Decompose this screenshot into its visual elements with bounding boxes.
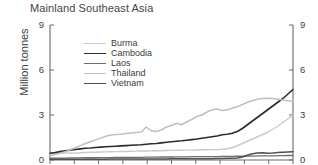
- chart-figure: Mainland Southeast Asia Million tonnes 0…: [0, 0, 318, 165]
- legend-item-thailand: Thailand: [84, 68, 152, 78]
- legend-line-swatch-icon: [84, 63, 106, 64]
- legend-line-swatch-icon: [84, 83, 106, 84]
- legend-item-label: Cambodia: [111, 48, 152, 58]
- legend-item-vietnam: Vietnam: [84, 78, 152, 88]
- legend-item-label: Burma: [111, 38, 138, 48]
- series-line-thailand: [50, 98, 293, 155]
- series-line-laos: [50, 156, 293, 159]
- legend-item-label: Thailand: [111, 68, 146, 78]
- y-tick-label-left: 9: [30, 19, 44, 30]
- legend: BurmaCambodiaLaosThailandVietnam: [84, 38, 152, 88]
- y-tick-label-left: 0: [30, 154, 44, 165]
- y-tick-label-right: 0: [300, 154, 314, 165]
- legend-item-laos: Laos: [84, 58, 152, 68]
- y-tick-label-left: 6: [30, 64, 44, 75]
- plot-area: [0, 0, 318, 165]
- y-tick-label-right: 3: [300, 109, 314, 120]
- y-tick-label-right: 6: [300, 64, 314, 75]
- legend-item-cambodia: Cambodia: [84, 48, 152, 58]
- legend-line-swatch-icon: [84, 43, 106, 44]
- legend-item-label: Laos: [111, 58, 131, 68]
- y-tick-label-left: 3: [30, 109, 44, 120]
- legend-line-swatch-icon: [84, 53, 106, 54]
- series-lines: [50, 90, 293, 160]
- legend-line-swatch-icon: [84, 73, 106, 74]
- legend-item-label: Vietnam: [111, 78, 144, 88]
- y-tick-label-right: 9: [300, 19, 314, 30]
- legend-item-burma: Burma: [84, 38, 152, 48]
